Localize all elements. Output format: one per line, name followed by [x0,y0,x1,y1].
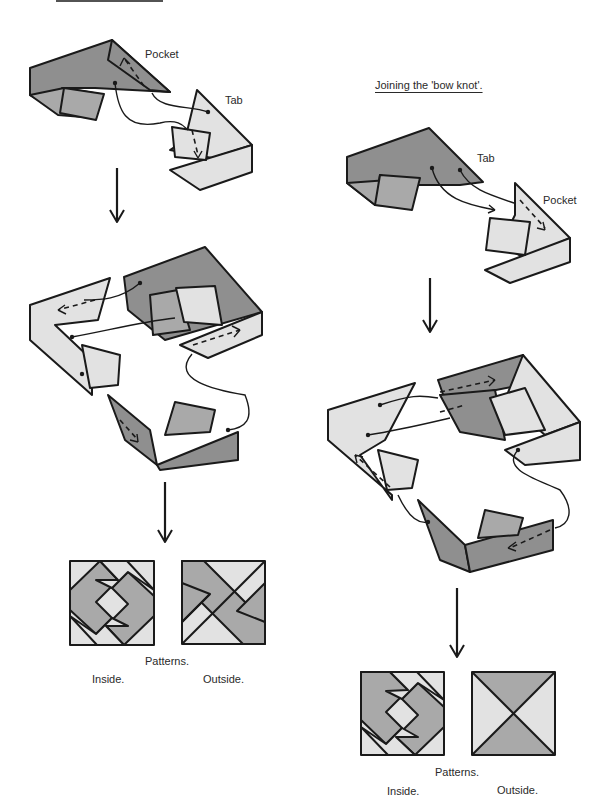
left-tab-label: Tab [225,94,243,106]
right-tab-label: Tab [477,152,495,164]
left-arrow-2 [158,482,172,542]
left-inside-label: Inside. [92,673,124,685]
right-pattern-outside [472,672,555,755]
left-step2-assembly [30,247,262,470]
right-arrow-1 [423,278,437,332]
left-arrow-1 [110,168,124,222]
right-patterns-caption: Patterns. [435,766,479,778]
right-inside-label: Inside. [387,785,419,797]
left-pattern-inside [70,561,154,645]
right-outside-label: Outside. [497,784,538,796]
left-pocket-label: Pocket [145,48,179,60]
left-pattern-outside [182,561,265,644]
right-arrow-2 [450,588,464,657]
right-title: Joining the 'bow knot'. [375,79,483,91]
left-patterns-caption: Patterns. [145,655,189,667]
right-pocket-label: Pocket [543,194,577,206]
diagram-canvas [0,0,605,812]
left-outside-label: Outside. [203,673,244,685]
right-pattern-inside [361,672,444,755]
right-step1-unit-dark [347,128,520,213]
right-step2-assembly [328,355,580,572]
